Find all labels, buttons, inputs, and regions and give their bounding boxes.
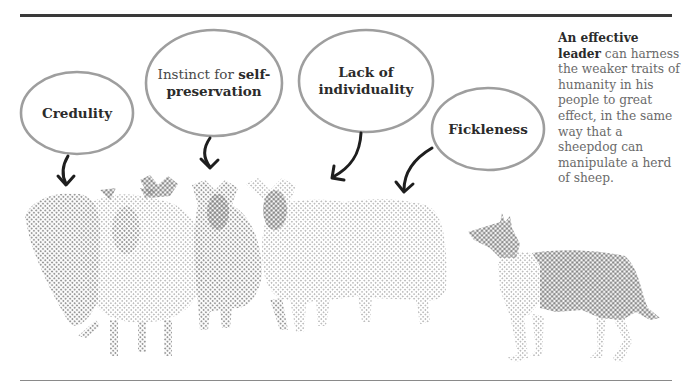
label-instinct-for: Instinct for bbox=[158, 66, 239, 82]
bubble-label-credulity: Credulity bbox=[21, 72, 133, 154]
caption-body: can harness the weaker traits of humanit… bbox=[558, 47, 680, 186]
label-self: self- bbox=[238, 66, 270, 82]
arrow-self-preservation-icon bbox=[201, 138, 218, 168]
caption-text: An effective leader can harness the weak… bbox=[558, 31, 683, 187]
sheep-flock-image bbox=[25, 175, 447, 356]
arrow-credulity-icon bbox=[58, 156, 74, 185]
sheepdog-image bbox=[468, 213, 660, 362]
arrow-lack-of-individuality-icon bbox=[332, 133, 361, 180]
arrow-fickleness-icon bbox=[396, 148, 432, 192]
bubble-label-self-preservation: Instinct for self- preservation bbox=[146, 31, 282, 135]
label-preservation: preservation bbox=[166, 83, 261, 99]
bubble-label-lack-of-individuality: Lack of individuality bbox=[299, 30, 433, 132]
label-fickleness: Fickleness bbox=[448, 121, 528, 138]
label-lack-of: Lack of bbox=[338, 64, 393, 80]
label-credulity: Credulity bbox=[42, 105, 112, 122]
bubble-label-fickleness: Fickleness bbox=[433, 88, 543, 170]
bottom-rule bbox=[20, 380, 672, 381]
label-individuality: individuality bbox=[319, 81, 414, 97]
